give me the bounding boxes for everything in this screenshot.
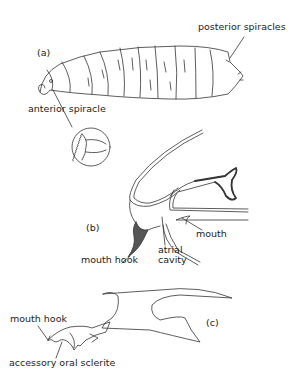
label-mouth: mouth: [196, 229, 227, 239]
label-cavity: cavity: [158, 255, 187, 265]
label-posterior-spiracles: posterior spiracles: [198, 22, 286, 32]
label-accessory-oral-sclerite: accessory oral sclerite: [9, 358, 115, 368]
label-anterior-spiracle: anterior spiracle: [28, 104, 106, 114]
cephalopharyngeal-skeleton: [48, 289, 232, 350]
label-mouth-hook-c: mouth hook: [10, 314, 67, 324]
larva-body: [39, 46, 244, 99]
panel-label-c: (c): [206, 318, 219, 328]
panel-label-a: (a): [37, 48, 50, 58]
anterior-spiracle-detail: [72, 128, 110, 166]
label-mouth-hook-b: mouth hook: [81, 255, 138, 265]
panel-label-b: (b): [86, 223, 99, 233]
head-section: [128, 130, 248, 265]
figure: posterior spiracles (a) anterior spiracl…: [0, 0, 301, 377]
